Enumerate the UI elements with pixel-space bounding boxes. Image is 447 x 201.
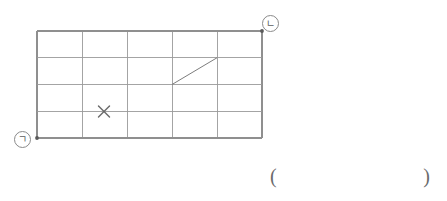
diagonal-segment (172, 58, 217, 85)
vertex-dot (35, 136, 39, 140)
vertex-label-giyeok: ㄱ (14, 131, 31, 148)
vertex-label-giyeok-text: ㄱ (18, 135, 27, 145)
answer-blank[interactable] (277, 176, 424, 177)
vertex-label-nieun: ㄴ (262, 15, 279, 32)
vertex-dot (260, 29, 264, 33)
answer-open-paren: ( (270, 165, 277, 188)
answer-field[interactable]: ( ) (270, 161, 430, 191)
answer-close-paren: ) (423, 165, 430, 188)
vertex-label-nieun-text: ㄴ (266, 19, 275, 29)
grid (37, 31, 262, 138)
